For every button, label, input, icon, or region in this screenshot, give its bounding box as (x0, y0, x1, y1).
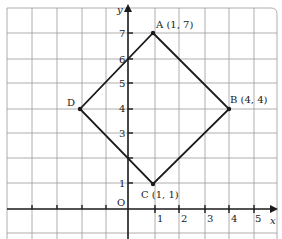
y-tick-label: 1 (119, 178, 125, 189)
grid (7, 8, 277, 239)
point-d-label: D (67, 97, 75, 108)
y-tick-label: 7 (119, 28, 125, 39)
tick-marks (32, 33, 254, 213)
quadrilateral-abcd (80, 33, 229, 184)
x-tick-label: 2 (181, 213, 187, 224)
point-a (151, 31, 155, 35)
x-tick-label: 4 (231, 213, 237, 224)
y-tick-label: 5 (119, 78, 125, 89)
y-tick-label: 3 (119, 128, 125, 139)
y-tick-label: 4 (119, 103, 125, 114)
point-c (151, 182, 155, 186)
y-axis-label: y (116, 4, 123, 15)
x-tick-label: 5 (255, 213, 261, 224)
origin-label: O (117, 197, 125, 208)
point-b-label: B (4, 4) (230, 94, 268, 105)
x-axis-label: x (270, 215, 276, 226)
x-tick-label: 3 (207, 213, 213, 224)
x-tick-label: 1 (157, 213, 163, 224)
point-b (227, 107, 231, 111)
axes (7, 10, 272, 239)
point-d (78, 107, 82, 111)
coordinate-diagram: y x O 1 2 3 4 5 1 3 4 5 6 7 A (1, 7) B (… (0, 0, 282, 239)
point-c-label: C (1, 1) (141, 189, 179, 200)
point-a-label: A (1, 7) (155, 19, 193, 30)
